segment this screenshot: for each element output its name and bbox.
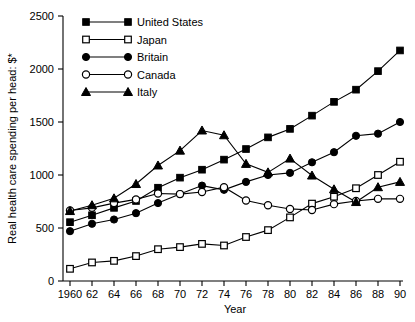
- data-point-united-states: [67, 219, 74, 226]
- data-point-canada: [308, 206, 315, 213]
- data-point-canada: [132, 196, 139, 203]
- data-point-italy: [198, 126, 207, 134]
- data-point-britain: [110, 216, 117, 223]
- data-point-canada: [176, 190, 183, 197]
- data-point-britain: [66, 228, 73, 235]
- data-point-japan: [199, 241, 206, 248]
- x-tick-label: 76: [240, 288, 252, 300]
- data-point-japan: [177, 244, 184, 251]
- data-point-japan: [133, 253, 140, 260]
- data-point-britain: [242, 178, 249, 185]
- data-point-united-states: [221, 156, 228, 163]
- x-tick-label: 66: [130, 288, 142, 300]
- data-point-canada: [220, 184, 227, 191]
- data-point-italy: [154, 161, 163, 169]
- data-point-united-states: [287, 126, 294, 133]
- data-point-canada: [396, 195, 403, 202]
- x-tick-label: 82: [306, 288, 318, 300]
- x-tick-label: 84: [328, 288, 340, 300]
- data-point-united-states: [199, 166, 206, 173]
- legend-label-0: United States: [137, 16, 204, 28]
- x-tick-label: 64: [108, 288, 120, 300]
- data-point-united-states: [243, 146, 250, 153]
- data-point-japan: [287, 214, 294, 221]
- data-point-italy: [330, 185, 339, 193]
- x-tick-label: 80: [284, 288, 296, 300]
- x-tick-label: 86: [350, 288, 362, 300]
- data-point-united-states: [375, 68, 382, 75]
- legend-marker-2: [82, 53, 89, 60]
- legend-label-3: Canada: [137, 69, 176, 81]
- data-point-britain: [88, 220, 95, 227]
- legend-label-2: Britain: [137, 51, 168, 63]
- x-tick-label: 72: [196, 288, 208, 300]
- data-point-britain: [308, 159, 315, 166]
- data-point-united-states: [177, 174, 184, 181]
- data-point-italy: [264, 168, 273, 176]
- data-point-japan: [331, 193, 338, 200]
- data-point-britain: [396, 118, 403, 125]
- data-point-italy: [110, 194, 119, 202]
- x-tick-label: 70: [174, 288, 186, 300]
- data-point-canada: [154, 190, 161, 197]
- data-point-britain: [352, 132, 359, 139]
- y-tick-label: 1500: [30, 116, 54, 128]
- series-line-united-states: [70, 50, 400, 222]
- data-point-canada: [286, 205, 293, 212]
- x-tick-label: 90: [394, 288, 406, 300]
- data-point-britain: [374, 130, 381, 137]
- legend-marker-1: [83, 36, 90, 43]
- line-chart: 0500100015002000250019606264666870727476…: [0, 0, 415, 322]
- y-axis-title: Real health care spending per head: $*: [6, 52, 18, 244]
- legend-label-1: Japan: [137, 34, 167, 46]
- data-point-united-states: [397, 47, 404, 54]
- data-point-united-states: [265, 134, 272, 141]
- data-point-britain: [132, 210, 139, 217]
- series-line-japan: [70, 162, 400, 269]
- data-point-italy: [396, 177, 405, 185]
- x-tick-label: 74: [218, 288, 230, 300]
- x-tick-label: 88: [372, 288, 384, 300]
- series-line-britain: [70, 122, 400, 231]
- data-point-canada: [330, 201, 337, 208]
- data-point-japan: [89, 259, 96, 266]
- data-point-japan: [67, 266, 74, 273]
- data-point-canada: [198, 188, 205, 195]
- legend-marker-3: [82, 71, 89, 78]
- x-tick-label: 78: [262, 288, 274, 300]
- y-tick-label: 2000: [30, 63, 54, 75]
- data-point-canada: [264, 202, 271, 209]
- data-point-japan: [155, 246, 162, 253]
- series-line-italy: [70, 130, 400, 211]
- data-point-japan: [265, 227, 272, 234]
- data-point-japan: [375, 172, 382, 179]
- data-point-japan: [353, 185, 360, 192]
- data-point-japan: [243, 234, 250, 241]
- legend-label-4: Italy: [137, 86, 158, 98]
- y-tick-label: 2500: [30, 10, 54, 22]
- legend-marker-end-2: [124, 53, 131, 60]
- legend-marker-end-1: [125, 36, 132, 43]
- data-point-britain: [154, 199, 161, 206]
- data-point-britain: [286, 169, 293, 176]
- data-point-japan: [397, 158, 404, 165]
- data-point-united-states: [309, 112, 316, 119]
- x-axis-title: Year: [224, 303, 247, 315]
- data-point-canada: [374, 195, 381, 202]
- legend-marker-end-0: [125, 19, 132, 26]
- x-tick-label: 62: [86, 288, 98, 300]
- legend-marker-0: [83, 19, 90, 26]
- data-point-united-states: [353, 86, 360, 93]
- data-point-united-states: [89, 212, 96, 219]
- data-point-britain: [330, 149, 337, 156]
- y-tick-label: 1000: [30, 169, 54, 181]
- chart-figure: 0500100015002000250019606264666870727476…: [0, 0, 415, 322]
- data-point-united-states: [331, 99, 338, 106]
- data-point-canada: [242, 197, 249, 204]
- data-point-japan: [111, 258, 118, 265]
- y-tick-label: 0: [48, 275, 54, 287]
- x-tick-label: 68: [152, 288, 164, 300]
- x-tick-label: 1960: [58, 288, 82, 300]
- y-tick-label: 500: [36, 222, 54, 234]
- data-point-italy: [308, 171, 317, 179]
